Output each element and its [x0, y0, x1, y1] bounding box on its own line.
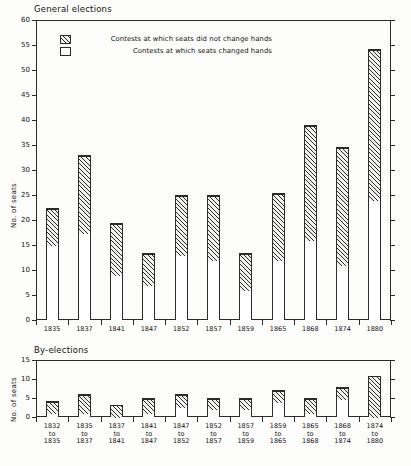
y-tick-mark-right	[390, 45, 395, 46]
bar-segment-did-not-change	[208, 399, 219, 410]
figure-root: General elections No. of seats 051015202…	[0, 0, 411, 466]
y-tick-mark-right	[390, 379, 395, 380]
bar-segment-changed	[305, 241, 316, 321]
y-tick-mark	[32, 295, 37, 296]
y-tick-mark	[32, 379, 37, 380]
x-label-line: 1837	[76, 437, 93, 445]
bar-segment-changed	[79, 234, 90, 322]
bar-stack	[336, 387, 349, 417]
bar-segment-changed	[273, 403, 284, 418]
x-axis-label: 1865	[262, 326, 294, 334]
x-label-line: 1880	[367, 325, 384, 333]
bar-segment-did-not-change	[305, 126, 316, 241]
x-label-line: 1874	[334, 437, 351, 445]
x-tick-mark	[68, 417, 69, 422]
bar-segment-changed	[337, 266, 348, 321]
bar-segment-did-not-change	[273, 194, 284, 262]
x-tick-mark	[294, 417, 295, 422]
bar-segment-did-not-change	[143, 399, 154, 414]
x-tick-mark	[101, 417, 102, 422]
x-axis-label: 1841	[101, 326, 133, 334]
y-tick-mark	[32, 195, 37, 196]
x-tick-mark	[36, 417, 37, 422]
bar-stack	[110, 405, 123, 417]
legend-item-did-not-change: Contests at which seats did not change h…	[60, 35, 275, 43]
x-tick-mark	[391, 320, 392, 325]
y-tick-label: 55	[4, 41, 30, 49]
bar-stack	[336, 147, 349, 321]
x-tick-mark	[230, 320, 231, 325]
y-tick-label: 40	[4, 116, 30, 124]
y-tick-mark	[32, 360, 37, 361]
x-label-line: 1837	[76, 325, 93, 333]
bar-segment-changed	[208, 410, 219, 418]
bar-segment-changed	[79, 414, 90, 418]
x-tick-mark	[391, 417, 392, 422]
bar-segment-did-not-change	[176, 395, 187, 408]
y-tick-label: 35	[4, 141, 30, 149]
x-tick-mark	[133, 320, 134, 325]
x-label-line: 1865	[270, 325, 287, 333]
x-axis-label: 1847to1852	[165, 423, 197, 446]
y-tick-mark	[32, 120, 37, 121]
legend-item-changed: Contests at which seats changed hands	[60, 47, 275, 55]
bar-stack	[207, 398, 220, 417]
bar-stack	[239, 253, 252, 321]
y-tick-mark-right	[390, 270, 395, 271]
x-tick-mark	[68, 320, 69, 325]
bar-stack	[175, 195, 188, 320]
bar-segment-changed	[47, 414, 58, 418]
bar-segment-changed	[208, 261, 219, 321]
y-tick-label: 60	[4, 16, 30, 24]
y-tick-label: 15	[4, 356, 30, 364]
bar-stack	[110, 223, 123, 321]
x-label-line: 1852	[173, 325, 190, 333]
general-elections-title: General elections	[34, 4, 112, 14]
x-axis-label: 1841to1847	[133, 423, 165, 446]
y-tick-label: 30	[4, 166, 30, 174]
x-label-line: 1880	[367, 437, 384, 445]
bar-stack	[46, 208, 59, 321]
bar-segment-did-not-change	[176, 196, 187, 256]
bar-segment-changed	[240, 410, 251, 418]
x-tick-mark	[197, 320, 198, 325]
x-label-line: 1859	[237, 325, 254, 333]
y-tick-mark	[32, 70, 37, 71]
legend-label-did-not-change: Contests at which seats did not change h…	[111, 35, 272, 43]
x-axis-label: 1857	[198, 326, 230, 334]
y-tick-mark-right	[390, 70, 395, 71]
y-tick-mark-right	[390, 120, 395, 121]
y-tick-mark-right	[390, 360, 395, 361]
legend-swatch-white	[60, 47, 71, 56]
x-tick-mark	[165, 320, 166, 325]
x-tick-mark	[230, 417, 231, 422]
bar-segment-did-not-change	[79, 156, 90, 234]
bar-segment-changed	[143, 414, 154, 418]
bar-stack	[142, 398, 155, 417]
x-axis-label: 1859	[230, 326, 262, 334]
y-tick-mark	[32, 170, 37, 171]
x-label-line: 1865	[270, 437, 287, 445]
x-tick-mark	[359, 417, 360, 422]
y-tick-label: 5	[4, 291, 30, 299]
bar-segment-changed	[240, 291, 251, 321]
x-axis-label: 1868	[294, 326, 326, 334]
y-tick-mark	[32, 145, 37, 146]
bar-segment-did-not-change	[240, 399, 251, 410]
bar-segment-did-not-change	[369, 377, 380, 418]
x-label-line: 1847	[141, 437, 158, 445]
x-label-line: 1841	[108, 325, 125, 333]
x-label-line: 1857	[205, 325, 222, 333]
x-axis-label: 1868to1874	[327, 423, 359, 446]
bar-segment-changed	[176, 256, 187, 321]
y-tick-mark-right	[390, 145, 395, 146]
x-label-line: 1857	[205, 437, 222, 445]
bar-segment-changed	[273, 261, 284, 321]
y-tick-mark	[32, 270, 37, 271]
x-axis-label: 1832to1835	[36, 423, 68, 446]
y-tick-mark-right	[390, 295, 395, 296]
x-label-line: 1841	[108, 437, 125, 445]
y-tick-mark	[32, 95, 37, 96]
x-axis-label: 1857to1859	[230, 423, 262, 446]
y-tick-mark	[32, 20, 37, 21]
